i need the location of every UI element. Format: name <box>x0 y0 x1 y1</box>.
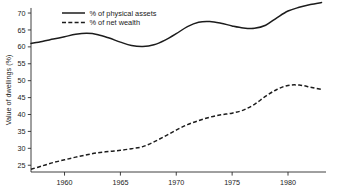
y-tick-label: 45 <box>18 93 26 102</box>
y-tick-label: 25 <box>18 161 26 170</box>
legend-label: % of physical assets <box>90 9 157 18</box>
chart-legend: % of physical assets% of net wealth <box>62 9 157 28</box>
y-tick-label: 65 <box>18 26 26 35</box>
x-tick-label: 1970 <box>168 178 184 187</box>
x-axis-ticks: 19601965197019751980 <box>57 172 296 187</box>
legend-label: % of net wealth <box>90 18 141 27</box>
y-tick-label: 35 <box>18 127 26 136</box>
series-line-net-wealth <box>31 85 322 169</box>
line-chart-value-of-dwellings: 25303540455055606570 1960196519701975198… <box>0 0 337 191</box>
y-tick-label: 70 <box>18 9 26 18</box>
y-tick-label: 40 <box>18 110 26 119</box>
y-tick-label: 50 <box>18 76 26 85</box>
series-line-physical-assets <box>31 3 322 47</box>
x-tick-label: 1975 <box>224 178 240 187</box>
x-tick-label: 1980 <box>280 178 296 187</box>
y-tick-label: 30 <box>18 144 26 153</box>
x-tick-label: 1965 <box>112 178 128 187</box>
y-tick-label: 60 <box>18 42 26 51</box>
chart-plot-area: 25303540455055606570 1960196519701975198… <box>0 0 337 191</box>
x-tick-label: 1960 <box>57 178 73 187</box>
y-axis-title: Value of dwellings (%) <box>4 55 13 126</box>
y-axis-ticks: 25303540455055606570 <box>18 9 32 170</box>
y-tick-label: 55 <box>18 59 26 68</box>
